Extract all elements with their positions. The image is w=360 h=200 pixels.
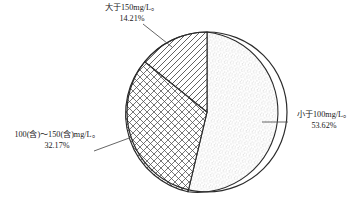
callout-label-100-to-150-percent: 32.17% xyxy=(1,141,113,152)
callout-label-100-to-150-name: 100(含)～150(含)mg/L。 xyxy=(1,130,113,141)
callout-label-less-than-100-percent: 53.62% xyxy=(289,121,359,132)
pie-chart-canvas xyxy=(0,0,360,200)
callout-label-less-than-100-name: 小于100mg/L。 xyxy=(289,110,359,121)
leader-line-greater-than-150 xyxy=(143,24,172,47)
callout-label-less-than-100: 小于100mg/L。 53.62% xyxy=(289,110,359,131)
callout-label-greater-than-150: 大于150mg/L。 14.21% xyxy=(86,3,178,24)
callout-label-greater-than-150-name: 大于150mg/L。 xyxy=(86,3,178,14)
callout-label-100-to-150: 100(含)～150(含)mg/L。 32.17% xyxy=(1,130,113,151)
callout-label-greater-than-150-percent: 14.21% xyxy=(86,14,178,25)
pie-chart: 大于150mg/L。 14.21% 小于100mg/L。 53.62% 100(… xyxy=(0,0,360,200)
